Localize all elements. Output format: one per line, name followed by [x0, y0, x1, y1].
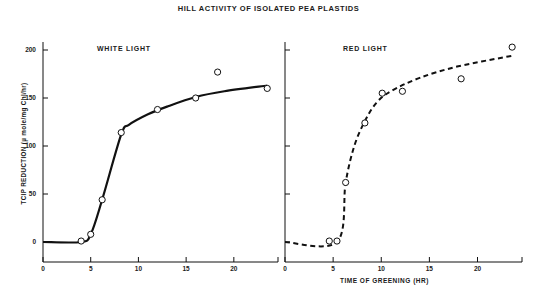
figure-container: HILL ACTIVITY OF ISOLATED PEA PLASTIDS W… — [0, 0, 537, 300]
series-white-light — [43, 69, 270, 244]
left-x-tick-label-10: 10 — [130, 265, 146, 272]
data-point-marker — [118, 129, 124, 135]
data-point-marker — [264, 85, 270, 91]
y-tick-label-150: 150 — [14, 94, 36, 101]
data-point-marker — [78, 238, 84, 244]
right-x-tick-label-20: 20 — [470, 265, 486, 272]
data-point-marker — [399, 88, 405, 94]
left-x-tick-label-15: 15 — [178, 265, 194, 272]
y-tick-label-200: 200 — [14, 46, 36, 53]
data-point-marker — [343, 179, 349, 185]
plot-area — [0, 0, 537, 300]
data-point-marker — [215, 69, 221, 75]
data-point-marker — [193, 95, 199, 101]
data-point-marker — [154, 106, 160, 112]
y-tick-label-100: 100 — [14, 142, 36, 149]
data-point-marker — [379, 90, 385, 96]
right-x-tick-label-15: 15 — [421, 265, 437, 272]
data-point-marker — [334, 238, 340, 244]
data-point-marker — [326, 238, 332, 244]
right-x-tick-label-0: 0 — [277, 265, 293, 272]
series-red-light — [285, 44, 515, 246]
right-x-tick-label-5: 5 — [325, 265, 341, 272]
data-point-marker — [458, 76, 464, 82]
left-x-tick-label-0: 0 — [35, 265, 51, 272]
data-point-marker — [99, 197, 105, 203]
y-tick-label-50: 50 — [14, 190, 36, 197]
left-x-tick-label-5: 5 — [83, 265, 99, 272]
left-x-tick-label-20: 20 — [226, 265, 242, 272]
data-point-marker — [509, 44, 515, 50]
y-tick-label-0: 0 — [14, 238, 36, 245]
right-x-tick-label-10: 10 — [373, 265, 389, 272]
trend-line — [285, 56, 512, 247]
data-point-marker — [88, 231, 94, 237]
data-point-marker — [362, 120, 368, 126]
